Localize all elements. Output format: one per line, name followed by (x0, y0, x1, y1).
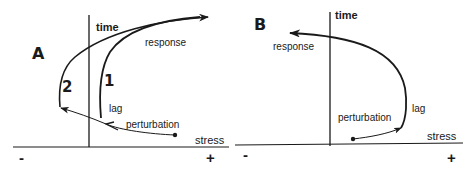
panel-b-graphic (235, 0, 469, 170)
x-axis-label: stress (195, 135, 224, 146)
panel-letter: B (254, 17, 266, 33)
x-plus-label: + (447, 150, 456, 165)
x-axis (235, 143, 463, 145)
response-label: response (273, 42, 314, 52)
path-1-label: 1 (104, 74, 114, 89)
panel-letter: A (32, 46, 44, 62)
y-axis-label: time (96, 22, 119, 33)
perturbation-curve (353, 128, 401, 139)
perturbation-label: perturbation (338, 113, 391, 123)
path-2-label: 2 (62, 80, 72, 95)
y-axis-label: time (335, 10, 358, 21)
x-minus-label: - (19, 150, 24, 165)
lag-label: lag (109, 104, 122, 114)
x-plus-label: + (206, 150, 215, 165)
panel-a: A time response 1 2 lag perturbation str… (0, 0, 235, 170)
x-axis-label: stress (427, 131, 456, 142)
response-label: response (145, 38, 186, 48)
panel-b: B time response lag perturbation stress … (235, 0, 469, 170)
perturbation-label: perturbation (126, 120, 179, 130)
lag-label: lag (412, 104, 425, 114)
x-minus-label: - (243, 147, 248, 162)
path-2-curve (60, 17, 208, 107)
